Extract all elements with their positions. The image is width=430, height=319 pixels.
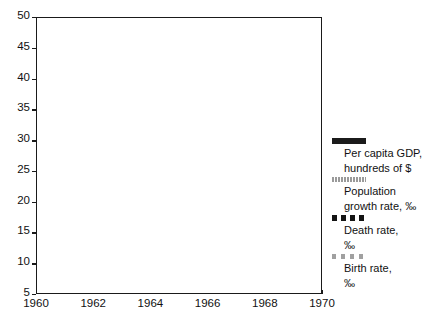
legend-label: Birth rate, [332,261,430,276]
legend-swatch-icon [332,138,366,144]
plot-frame [36,17,322,294]
chart-legend: Per capita GDP,hundreds of $Populationgr… [332,138,430,292]
x-tick-label: 1968 [242,297,288,309]
y-tick-label: 40 [0,71,30,83]
y-tick-label: 30 [0,132,30,144]
legend-swatch-icon [332,177,366,182]
y-tick-label: 25 [0,163,30,175]
x-tick-label: 1960 [13,297,59,309]
x-tick-label: 1964 [127,297,173,309]
x-tick-mark [322,290,323,294]
y-tick-mark [32,294,36,295]
y-tick-label: 35 [0,101,30,113]
legend-swatch-icon [332,254,366,259]
y-tick-label: 45 [0,40,30,52]
legend-label: hundreds of $ [332,161,430,176]
y-tick-label: 20 [0,194,30,206]
x-tick-label: 1966 [185,297,231,309]
legend-entry[interactable]: Populationgrowth rate, ‰ [332,177,430,214]
y-tick-label: 10 [0,255,30,267]
legend-label: Population [332,184,430,199]
x-tick-label: 1970 [299,297,345,309]
legend-label: Per capita GDP, [332,146,430,161]
legend-label: Death rate, [332,223,430,238]
legend-entry[interactable]: Birth rate,‰ [332,254,430,291]
legend-label: ‰ [332,276,430,291]
x-tick-label: 1962 [70,297,116,309]
legend-label: ‰ [332,238,430,253]
legend-entry[interactable]: Per capita GDP,hundreds of $ [332,138,430,176]
y-tick-label: 15 [0,224,30,236]
legend-label: growth rate, ‰ [332,199,430,214]
chart-root: 5101520253035404550 19601962196419661968… [0,0,430,319]
y-tick-label: 50 [0,9,30,21]
legend-entry[interactable]: Death rate,‰ [332,215,430,253]
legend-swatch-icon [332,215,366,221]
